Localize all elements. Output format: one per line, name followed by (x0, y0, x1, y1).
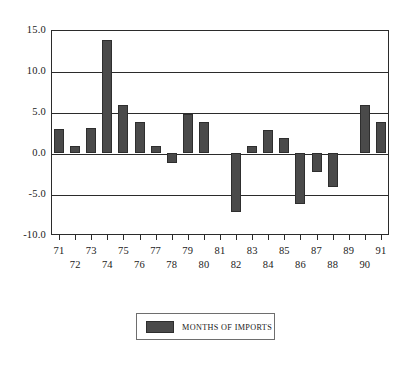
bar-chart: 15.010.05.00.0-5.0-10.0 7172737475767778… (0, 0, 403, 365)
x-axis-tick (333, 235, 334, 240)
bar (328, 153, 338, 187)
y-axis-tick-label: 10.0 (0, 66, 46, 76)
x-axis-tick-label: 86 (288, 259, 312, 270)
bar (279, 138, 289, 153)
x-axis-tick (75, 235, 76, 240)
x-axis-tick-label: 88 (321, 259, 345, 270)
y-axis-tick-label: -10.0 (0, 230, 46, 240)
bar (295, 153, 305, 204)
bar (231, 153, 241, 212)
x-axis-tick (252, 235, 253, 240)
x-axis-tick (317, 235, 318, 240)
x-axis-tick (140, 235, 141, 240)
x-axis-tick (381, 235, 382, 240)
x-axis-tick (123, 235, 124, 240)
x-axis-tick (156, 235, 157, 240)
bar (135, 122, 145, 153)
x-axis-tick-label: 82 (224, 259, 248, 270)
y-axis-tick-label: -5.0 (0, 189, 46, 199)
x-axis-tick-label: 73 (79, 245, 103, 256)
y-axis-tick-label: 15.0 (0, 25, 46, 35)
bar-series-months-of-imports (51, 30, 389, 235)
bar (183, 114, 193, 153)
x-axis-tick-label: 90 (353, 259, 377, 270)
bar (167, 153, 177, 163)
x-axis-tick (220, 235, 221, 240)
bar (151, 146, 161, 153)
x-axis-tick-label: 74 (95, 259, 119, 270)
y-axis-tick-label: 5.0 (0, 107, 46, 117)
x-axis-tick-label: 89 (337, 245, 361, 256)
bar (54, 129, 64, 153)
x-axis-tick (284, 235, 285, 240)
bar (70, 146, 80, 153)
x-axis-tick (300, 235, 301, 240)
legend-label-months-of-imports: MONTHS OF IMPORTS (182, 322, 272, 333)
x-axis-tick-label: 85 (272, 245, 296, 256)
x-axis-tick-label: 84 (256, 259, 280, 270)
bar (360, 105, 370, 153)
x-axis-tick-label: 79 (176, 245, 200, 256)
x-axis-tick (59, 235, 60, 240)
x-axis-tick-label: 72 (63, 259, 87, 270)
x-axis-tick-label: 71 (47, 245, 71, 256)
legend-swatch-months-of-imports (146, 321, 174, 333)
x-axis-tick (107, 235, 108, 240)
x-axis-tick (91, 235, 92, 240)
x-axis-tick-label: 75 (111, 245, 135, 256)
x-axis-tick-label: 80 (192, 259, 216, 270)
x-axis-tick (172, 235, 173, 240)
x-axis-tick-label: 91 (369, 245, 393, 256)
x-axis-tick-label: 83 (240, 245, 264, 256)
bar (199, 122, 209, 153)
x-axis-tick-label: 77 (144, 245, 168, 256)
bar (263, 130, 273, 153)
x-axis-tick-label: 78 (160, 259, 184, 270)
x-axis-tick (188, 235, 189, 240)
legend: MONTHS OF IMPORTS (136, 313, 275, 340)
bar (118, 105, 128, 153)
x-axis-tick-label: 87 (305, 245, 329, 256)
bar (102, 40, 112, 153)
x-axis-tick (349, 235, 350, 240)
y-axis-tick-label: 0.0 (0, 148, 46, 158)
x-axis-tick-label: 81 (208, 245, 232, 256)
x-axis-tick (204, 235, 205, 240)
x-axis-tick (236, 235, 237, 240)
bar (376, 122, 386, 153)
bar (247, 146, 257, 153)
bar (312, 153, 322, 172)
x-axis-tick-label: 76 (128, 259, 152, 270)
x-axis-tick (268, 235, 269, 240)
bar (86, 128, 96, 153)
x-axis-tick (365, 235, 366, 240)
